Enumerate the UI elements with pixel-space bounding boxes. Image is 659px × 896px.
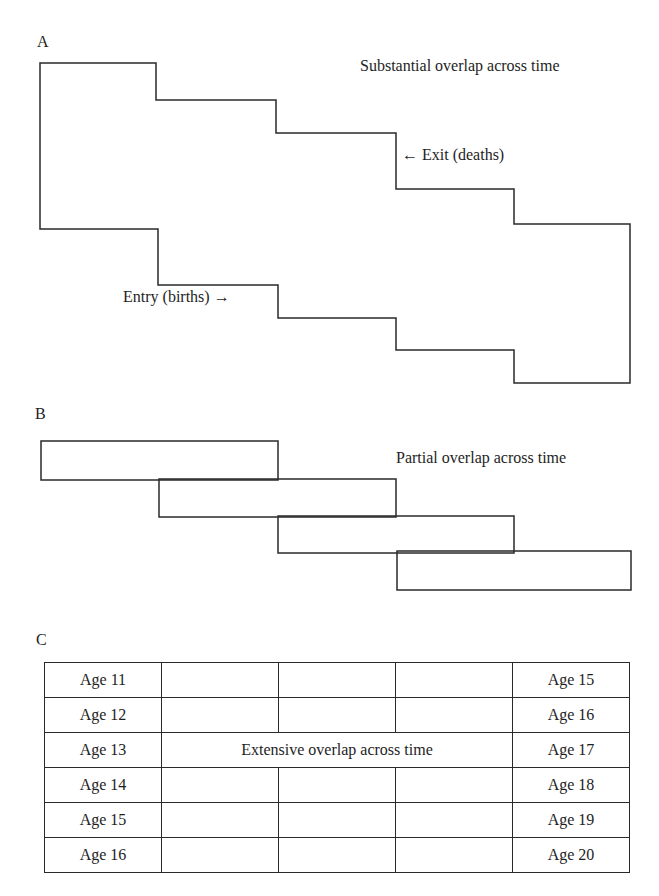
empty-cell [162, 698, 279, 733]
grid-row: Age 16 Age 20 [45, 838, 630, 873]
panel-a-staircase-band [40, 63, 630, 383]
empty-cell [162, 838, 279, 873]
right-age-cell: Age 18 [513, 768, 630, 803]
empty-cell [396, 768, 513, 803]
panel-c-letter: C [36, 631, 47, 649]
panel-b-cohort-3 [278, 516, 514, 553]
empty-cell [396, 838, 513, 873]
grid-row: Age 12 Age 16 [45, 698, 630, 733]
panel-b-cohort-1 [41, 441, 278, 480]
empty-cell [162, 803, 279, 838]
panel-b-cohort-4 [397, 551, 631, 590]
left-age-cell: Age 12 [45, 698, 162, 733]
left-age-cell: Age 15 [45, 803, 162, 838]
empty-cell [396, 663, 513, 698]
empty-cell [279, 663, 396, 698]
empty-cell [162, 768, 279, 803]
left-age-cell: Age 16 [45, 838, 162, 873]
grid-row: Age 11 Age 15 [45, 663, 630, 698]
empty-cell [279, 698, 396, 733]
empty-cell [279, 838, 396, 873]
empty-cell [396, 698, 513, 733]
panel-c-title: Extensive overlap across time [162, 733, 513, 768]
right-age-cell: Age 15 [513, 663, 630, 698]
empty-cell [279, 768, 396, 803]
overlap-shapes [0, 0, 659, 620]
left-age-cell: Age 14 [45, 768, 162, 803]
right-age-cell: Age 17 [513, 733, 630, 768]
panel-c-age-grid: Age 11 Age 15 Age 12 Age 16 Age 13 Exten… [44, 662, 630, 873]
left-age-cell: Age 11 [45, 663, 162, 698]
grid-row: Age 14 Age 18 [45, 768, 630, 803]
grid-row: Age 13 Extensive overlap across time Age… [45, 733, 630, 768]
empty-cell [396, 803, 513, 838]
grid-row: Age 15 Age 19 [45, 803, 630, 838]
empty-cell [162, 663, 279, 698]
panel-b-cohort-2 [159, 479, 396, 517]
empty-cell [279, 803, 396, 838]
right-age-cell: Age 16 [513, 698, 630, 733]
left-age-cell: Age 13 [45, 733, 162, 768]
right-age-cell: Age 19 [513, 803, 630, 838]
right-age-cell: Age 20 [513, 838, 630, 873]
